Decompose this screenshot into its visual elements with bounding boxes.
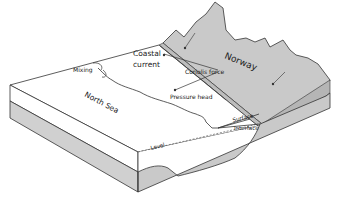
label-pressure-head: Pressure head <box>170 93 213 100</box>
label-coastal-current-2: current <box>133 60 160 69</box>
label-coastal-current-1: Coastal <box>133 49 161 58</box>
label-interface: Interface <box>234 125 259 131</box>
label-mixing: Mixing <box>73 66 93 74</box>
coastal-current-diagram: Norway Coastal current Coriolis force Pr… <box>0 0 338 205</box>
label-coriolis-force: Coriolis force <box>185 68 224 75</box>
